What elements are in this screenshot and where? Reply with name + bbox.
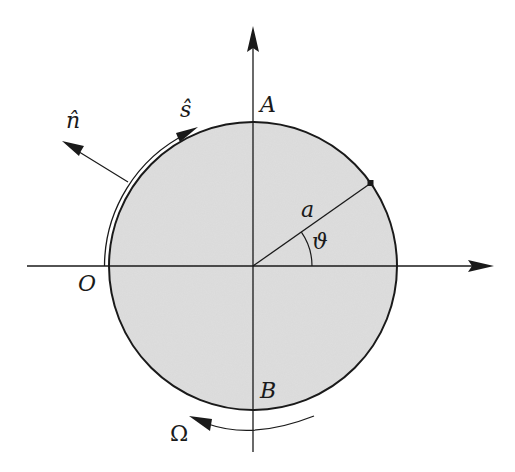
- label-omega: Ω: [170, 421, 188, 446]
- label-a: a: [301, 197, 314, 222]
- label-A: A: [258, 92, 276, 117]
- diagram-canvas: A B O a ϑ n̂ ŝ Ω: [0, 0, 515, 472]
- label-O: O: [78, 271, 96, 296]
- rotation-indicator: [189, 416, 314, 431]
- label-s-hat: ŝ: [180, 97, 191, 122]
- label-B: B: [259, 378, 276, 403]
- label-n-hat: n̂: [66, 108, 80, 133]
- boundary-point: [368, 180, 374, 186]
- normal-vector: [62, 141, 128, 182]
- rotation-arrow-icon: [189, 416, 212, 431]
- label-theta: ϑ: [312, 229, 328, 254]
- normal-arrow-icon: [62, 141, 84, 156]
